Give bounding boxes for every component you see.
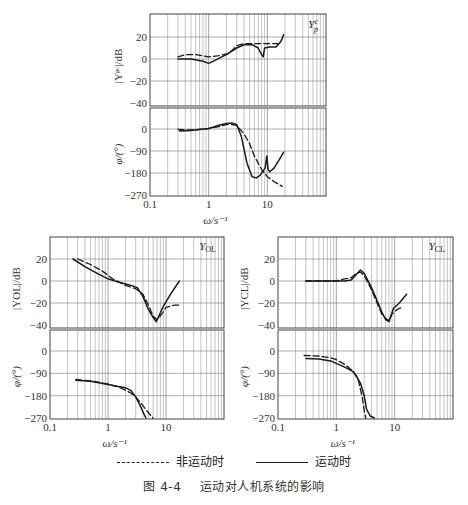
legend-item-stationary: 非运动时 [117, 452, 224, 469]
mag-ytick-label: 0 [42, 275, 48, 287]
phase-ytick-label: −180 [252, 390, 275, 402]
panel-title: YOL [199, 240, 216, 254]
mag-ytick-label: 20 [36, 253, 48, 265]
mag-ytick-label: 0 [142, 53, 148, 65]
phase-curve-moving [180, 123, 284, 178]
phase-ytick-label: −90 [30, 367, 48, 379]
phase-axis-label: φ/(°) [112, 143, 125, 164]
mag-ytick-label: −20 [30, 297, 48, 309]
chart-y-cl: 200−20−400−90−180−2700.1110ω/s⁻¹|YCL|/dB… [238, 237, 453, 449]
x-axis-label: ω/s⁻¹ [331, 437, 355, 449]
legend-label-stationary: 非运动时 [176, 455, 224, 469]
mag-ytick-label: 20 [136, 31, 148, 43]
magnitude-curve-stationary [178, 44, 278, 57]
phase-ytick-label: 0 [270, 345, 276, 357]
mag-ytick-label: −40 [258, 319, 276, 331]
mag-ytick-label: −20 [130, 75, 148, 87]
xtick-label: 10 [161, 421, 173, 433]
mag-ytick-label: −20 [258, 297, 276, 309]
legend-label-moving: 运动时 [315, 455, 351, 469]
magnitude-axis-label: |Yᵖᶜ|/dB [112, 49, 124, 83]
figure-title: 运动对人机系统的影响 [200, 480, 325, 494]
phase-ytick-label: 0 [42, 345, 48, 357]
xtick-label: 0.1 [143, 198, 157, 210]
figure-number: 图 4-4 [143, 480, 181, 494]
mag-ytick-label: 20 [264, 253, 276, 265]
phase-panel-frame [50, 330, 224, 419]
xtick-label: 10 [389, 421, 401, 433]
phase-ytick-label: 0 [142, 123, 148, 135]
solid-line-icon [256, 462, 308, 463]
magnitude-panel-frame [150, 14, 326, 106]
xtick-label: 10 [262, 198, 274, 210]
dashed-line-icon [117, 462, 169, 463]
mag-ytick-label: 0 [270, 275, 276, 287]
phase-ytick-label: −90 [130, 145, 148, 157]
xtick-label: 0.1 [43, 421, 57, 433]
xtick-label: 1 [105, 421, 111, 433]
magnitude-panel-frame [278, 237, 453, 328]
xtick-label: 1 [206, 198, 212, 210]
chart-yp-c: 200−20−400−90−180−2700.1110ω/s⁻¹|Yᵖᶜ|/dB… [112, 14, 326, 226]
magnitude-axis-label: |YCL|/dB [238, 267, 250, 309]
xtick-label: 1 [334, 421, 340, 433]
panel-title: Ycp [308, 17, 318, 34]
magnitude-axis-label: |YOL|/dB [10, 267, 22, 310]
mag-ytick-label: −40 [30, 319, 48, 331]
phase-panel-frame [150, 108, 326, 196]
x-axis-label: ω/s⁻¹ [203, 214, 227, 226]
magnitude-curve-stationary [78, 259, 181, 320]
phase-ytick-label: −90 [258, 367, 276, 379]
legend-item-moving: 运动时 [256, 452, 351, 469]
magnitude-curve-stationary [306, 272, 403, 320]
phase-ytick-label: −180 [124, 167, 147, 179]
panel-title: YCL [429, 240, 445, 254]
phase-ytick-label: −180 [24, 390, 47, 402]
magnitude-curve-moving [306, 270, 407, 322]
xtick-label: 0.1 [271, 421, 285, 433]
figure-caption: 图 4-4 运动对人机系统的影响 [0, 477, 468, 494]
figure-canvas: 200−20−400−90−180−2700.1110ω/s⁻¹|Yᵖᶜ|/dB… [0, 0, 468, 450]
mag-ytick-label: −40 [130, 97, 148, 109]
legend: 非运动时 运动时 [0, 452, 468, 469]
x-axis-label: ω/s⁻¹ [102, 437, 126, 449]
phase-axis-label: φ/(°) [238, 366, 251, 387]
phase-axis-label: φ/(°) [10, 366, 23, 387]
chart-y-ol: 200−20−400−90−180−2700.1110ω/s⁻¹|YOL|/dB… [10, 237, 224, 449]
magnitude-panel-frame [50, 237, 224, 328]
